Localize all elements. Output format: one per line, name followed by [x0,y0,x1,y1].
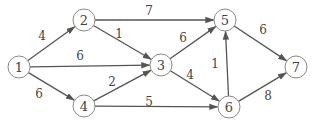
edge-weight-label: 1 [211,57,219,71]
node-label: 2 [80,13,88,28]
edge-weight-label: 7 [145,4,153,18]
edge-4-to-3 [94,70,151,100]
node-6: 6 [218,96,240,118]
node-label: 1 [15,60,23,75]
node-1: 1 [8,56,30,78]
edge-weight-label: 8 [264,89,272,103]
edge-weight-label: 6 [35,87,43,101]
edge-weight-label: 4 [38,29,46,43]
edge-1-to-3 [30,65,150,67]
edge-weight-label: 6 [76,49,84,63]
edge-6-to-7 [238,73,286,101]
node-5: 5 [214,9,236,31]
node-label: 3 [157,58,165,73]
edge-3-to-5 [170,27,216,59]
node-2: 2 [73,9,95,31]
node-label: 5 [221,13,229,28]
node-7: 7 [285,56,307,78]
node-3: 3 [150,54,172,76]
node-label: 4 [80,99,88,114]
edge-weight-label: 1 [115,27,123,41]
edge-6-to-5 [226,31,229,96]
edge-weight-label: 5 [145,95,153,109]
edge-weight-label: 6 [179,31,187,45]
node-label: 6 [225,100,233,115]
node-label: 7 [292,60,300,75]
graph-diagram: 466712564168 1234567 [0,0,315,125]
edge-1-to-2 [28,27,75,61]
node-4: 4 [73,95,95,117]
edge-weight-label: 6 [259,23,267,37]
edge-4-to-6 [95,106,218,107]
edge-3-to-6 [170,71,219,101]
edge-weight-label: 4 [186,68,194,82]
edge-weight-label: 2 [108,75,116,89]
